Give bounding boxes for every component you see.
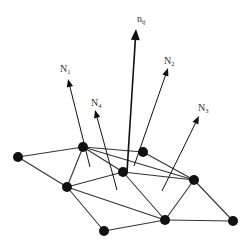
arrowhead-icon: [67, 79, 73, 88]
mesh-edge-C-F: [143, 152, 194, 180]
mesh-edge-D-F: [123, 172, 194, 180]
mesh-edge-A-B: [18, 147, 83, 157]
mesh-edge-G-F: [165, 180, 194, 220]
mesh-edge-G-I: [165, 220, 233, 221]
arrow-shaft: [127, 38, 135, 172]
mesh-normal-diagram: nijN1N4N2N3: [0, 0, 250, 245]
mesh-edge-B-D: [83, 147, 123, 172]
label-N_3: N3: [198, 102, 208, 114]
arrowhead-icon: [193, 116, 199, 125]
mesh-vertex-F: [189, 175, 199, 185]
mesh-vertices: [13, 142, 238, 236]
mesh-vertex-H: [99, 226, 109, 236]
mesh-edge-A-E: [18, 157, 67, 187]
label-N_2: N2: [164, 55, 174, 67]
mesh-vertex-E: [62, 182, 72, 192]
mesh-vertex-B: [78, 142, 88, 152]
mesh-vertex-D: [118, 167, 128, 177]
mesh-edge-B-E: [67, 147, 83, 187]
label-N_1: N1: [60, 63, 70, 75]
mesh-edges: [18, 147, 233, 231]
mesh-edge-H-G: [104, 220, 165, 231]
arrowhead-icon: [162, 68, 168, 77]
arrow-shaft: [97, 116, 117, 190]
mesh-edge-F-I: [194, 180, 233, 221]
label-n_ij: nij: [137, 13, 146, 25]
label-N_4: N4: [91, 97, 102, 109]
mesh-vertex-I: [228, 216, 238, 226]
arrowhead-icon: [131, 29, 140, 40]
mesh-vertex-G: [160, 215, 170, 225]
normal-arrows: [67, 29, 199, 191]
normal-arrow-n_ij: [127, 29, 140, 172]
mesh-vertex-A: [13, 152, 23, 162]
arrowhead-icon: [94, 110, 100, 119]
normal-arrow-N_1: [67, 79, 90, 167]
mesh-vertex-C: [138, 147, 148, 157]
diagram-svg: nijN1N4N2N3: [0, 0, 250, 245]
